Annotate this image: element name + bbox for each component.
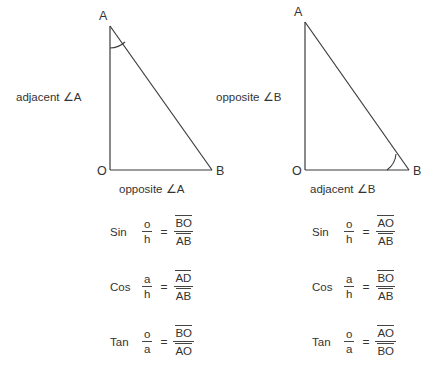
formula-right-sin-name: Sin (312, 226, 338, 238)
formula-left-tan-equals: = (160, 335, 167, 349)
formula-left-tan-ratio-num: o (142, 328, 152, 341)
formula-right-tan-result-den: BO (377, 343, 394, 358)
formula-right-sin: Sin o h = AO AB (312, 215, 399, 248)
right-triangle-vertex-b-label: B (413, 165, 421, 178)
right-triangle-adjacent-label: adjacent ∠B (310, 184, 375, 196)
formula-right-sin-result-num: AO (377, 215, 394, 230)
formula-left-cos-ratio: a h (142, 273, 152, 300)
left-triangle-vertex-a-label: A (99, 10, 107, 23)
formula-right-tan-ratio-num: o (344, 328, 354, 341)
formula-right-cos-ratio-den: h (344, 286, 354, 300)
formula-left-cos-equals: = (160, 280, 167, 294)
formula-left-cos-result: AD AB (173, 270, 193, 303)
formula-right-sin-result: AO AB (375, 215, 396, 248)
formula-right-cos-equals: = (362, 280, 369, 294)
right-triangle-shape (305, 22, 409, 170)
formula-left-sin-equals: = (160, 225, 167, 239)
formula-left-tan-ratio: o a (142, 328, 152, 355)
left-triangle-opposite-label: opposite ∠A (119, 184, 184, 196)
formula-left-tan-name: Tan (110, 336, 136, 348)
left-triangle-adjacent-label: adjacent ∠A (16, 92, 81, 104)
formula-left-cos-result-num: AD (175, 270, 191, 285)
formula-right-tan-result: AO BO (375, 325, 396, 358)
left-triangle-vertex-b-label: B (216, 165, 224, 178)
triangles-canvas (0, 0, 448, 380)
formula-left-sin: Sin o h = BO AB (110, 215, 197, 248)
formula-right-sin-result-den: AB (378, 233, 393, 248)
formula-right-cos-result-den: AB (378, 288, 393, 303)
formula-right-cos-result-num: BO (377, 270, 394, 285)
formula-left-sin-ratio-den: h (142, 231, 152, 245)
formula-left-tan-ratio-den: a (142, 341, 152, 355)
formula-left-tan-result-num: BO (175, 325, 192, 340)
formula-right-tan: Tan o a = AO BO (312, 325, 399, 358)
formula-left-sin-result-den: AB (176, 233, 191, 248)
formula-left-cos-result-den: AB (176, 288, 191, 303)
formula-right-tan-equals: = (362, 335, 369, 349)
formula-right-tan-ratio-den: a (344, 341, 354, 355)
formula-right-sin-equals: = (362, 225, 369, 239)
formula-left-cos-ratio-den: h (142, 286, 152, 300)
formula-right-tan-result-num: AO (377, 325, 394, 340)
left-triangle-vertex-o-label: O (97, 165, 107, 178)
formula-right-sin-ratio-num: o (344, 218, 354, 231)
formula-left-sin-result: BO AB (173, 215, 194, 248)
left-triangle-shape (110, 26, 212, 170)
formula-left-cos: Cos a h = AD AB (110, 270, 196, 303)
formula-left-tan-result-den: AO (175, 343, 192, 358)
trig-diagram: A O B adjacent ∠A opposite ∠A A O B oppo… (0, 0, 448, 380)
formula-left-sin-ratio: o h (142, 218, 152, 245)
right-triangle-vertex-o-label: O (292, 165, 302, 178)
formula-left-cos-name: Cos (110, 281, 136, 293)
formula-left-sin-name: Sin (110, 226, 136, 238)
formula-right-cos: Cos a h = BO AB (312, 270, 399, 303)
right-triangle-opposite-label: opposite ∠B (216, 92, 281, 104)
formula-left-tan: Tan o a = BO AO (110, 325, 197, 358)
formula-right-cos-ratio: a h (344, 273, 354, 300)
formula-left-tan-result: BO AO (173, 325, 194, 358)
formula-right-sin-ratio-den: h (344, 231, 354, 245)
formula-right-sin-ratio: o h (344, 218, 354, 245)
formula-right-tan-ratio: o a (344, 328, 354, 355)
formula-right-tan-name: Tan (312, 336, 338, 348)
formula-right-cos-name: Cos (312, 281, 338, 293)
formula-left-sin-ratio-num: o (142, 218, 152, 231)
formula-left-sin-result-num: BO (175, 215, 192, 230)
formula-right-cos-result: BO AB (375, 270, 396, 303)
formula-right-cos-ratio-num: a (344, 273, 354, 286)
formula-left-cos-ratio-num: a (142, 273, 152, 286)
right-triangle-vertex-a-label: A (294, 6, 302, 19)
